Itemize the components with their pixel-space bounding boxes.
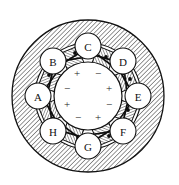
polarity-mark-3: + — [106, 82, 112, 94]
rotor-bore-circle — [54, 62, 122, 130]
pole-h[interactable]: H — [40, 118, 66, 144]
pole-label-e: E — [135, 91, 142, 103]
winding-node — [128, 77, 132, 81]
winding-node — [104, 55, 108, 59]
pole-label-a: A — [34, 91, 42, 103]
pole-a[interactable]: A — [25, 83, 51, 109]
polarity-mark-2: − — [95, 67, 101, 79]
polarity-mark-4: − — [106, 98, 112, 110]
pole-label-b: B — [49, 56, 56, 68]
pole-label-c: C — [84, 41, 91, 53]
pole-b[interactable]: B — [40, 48, 66, 74]
machine-cross-section-svg: A B C D E F — [0, 0, 179, 185]
pole-label-d: D — [119, 56, 127, 68]
pole-label-g: G — [84, 141, 92, 153]
polarity-mark-7: + — [64, 98, 70, 110]
pole-f[interactable]: F — [110, 118, 136, 144]
winding-node — [126, 108, 130, 112]
pole-label-h: H — [49, 126, 57, 138]
pole-d[interactable]: D — [110, 48, 136, 74]
polarity-mark-8: − — [64, 82, 70, 94]
diagram-root: A B C D E F — [0, 0, 179, 185]
polarity-mark-6: − — [75, 111, 81, 123]
pole-c[interactable]: C — [75, 33, 101, 59]
pole-g[interactable]: G — [75, 133, 101, 159]
pole-e[interactable]: E — [125, 83, 151, 109]
polarity-mark-5: + — [95, 111, 101, 123]
polarity-mark-1: + — [74, 67, 80, 79]
pole-label-f: F — [120, 126, 126, 138]
